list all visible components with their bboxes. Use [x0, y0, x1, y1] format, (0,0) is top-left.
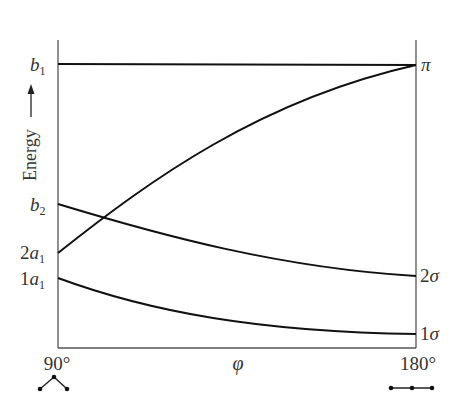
- curve-b1-pi: [58, 64, 416, 65]
- svg-text:Energy: Energy: [20, 129, 40, 181]
- curve-b2-2sigma: [58, 204, 416, 276]
- label-b2: b2: [30, 194, 46, 218]
- curve-1a1-1sigma: [58, 278, 416, 334]
- y-axis-label: Energy: [20, 129, 40, 181]
- x-tick-180: 180°: [400, 353, 436, 374]
- label-2a1: 2a1: [20, 242, 45, 266]
- label-b1: b1: [30, 54, 46, 78]
- walsh-diagram-chart: b1 b2 2a1 1a1 π 2σ 1σ Energy 90° 180° φ: [0, 0, 456, 415]
- label-1sigma: 1σ: [420, 323, 440, 344]
- label-pi: π: [421, 54, 431, 75]
- x-axis-label-phi: φ: [232, 352, 243, 375]
- linear-molecule-icon: [389, 386, 435, 391]
- label-1a1: 1a1: [20, 268, 45, 292]
- bent-molecule-icon: [38, 375, 70, 392]
- curve-2a1-pi: [58, 65, 416, 253]
- x-tick-90: 90°: [44, 353, 71, 374]
- label-2sigma: 2σ: [420, 265, 440, 286]
- energy-arrow-head-icon: [28, 84, 35, 94]
